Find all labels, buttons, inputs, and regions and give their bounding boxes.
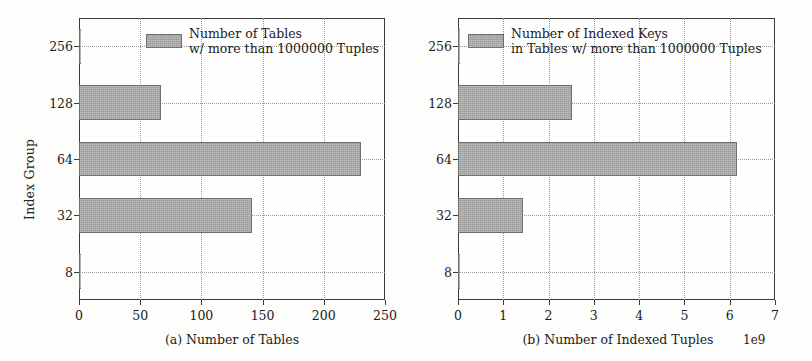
x-tick-label: 4: [635, 308, 643, 323]
x-tick-label: 1: [499, 308, 507, 323]
bar-256: [458, 29, 460, 64]
y-tick-mark: [74, 272, 79, 273]
bar-128: [458, 85, 572, 120]
x-tick-mark: [684, 300, 685, 305]
x-tick-label: 250: [373, 308, 397, 323]
panel-a-y-axis-label: Index Group: [22, 139, 37, 220]
y-tick-mark: [453, 215, 458, 216]
x-tick-mark: [775, 300, 776, 305]
x-tick-mark: [730, 300, 731, 305]
panel-b-legend-line2: in Tables w/ more than 1000000 Tuples: [511, 41, 762, 56]
bar-8: [458, 254, 460, 289]
bar-32: [458, 198, 523, 233]
x-tick-label: 200: [312, 308, 336, 323]
y-tick-label: 8: [420, 264, 452, 279]
bar-128: [79, 85, 161, 120]
x-tick-mark: [140, 300, 141, 305]
x-tick-label: 6: [726, 308, 734, 323]
panel-b-exponent-label: 1e9: [743, 333, 765, 347]
gridline-horizontal: [458, 272, 775, 273]
y-tick-mark: [74, 159, 79, 160]
y-tick-mark: [453, 159, 458, 160]
panel-a-number-of-tables: Index Group 050100150200250 83264128256 …: [0, 0, 406, 361]
x-tick-label: 0: [454, 308, 462, 323]
x-tick-mark: [201, 300, 202, 305]
panel-b-number-of-indexed-tuples: Index Group 01234567 83264128256 Number …: [406, 0, 812, 361]
panel-a-legend: Number of Tables w/ more than 1000000 Tu…: [146, 26, 379, 57]
x-tick-label: 0: [75, 308, 83, 323]
x-tick-label: 7: [771, 308, 779, 323]
panel-a-legend-text: Number of Tables w/ more than 1000000 Tu…: [189, 26, 379, 57]
panel-b-legend: Number of Indexed Keys in Tables w/ more…: [468, 26, 762, 57]
y-tick-label: 32: [41, 208, 73, 223]
y-tick-mark: [74, 103, 79, 104]
x-tick-mark: [79, 300, 80, 305]
panel-a-legend-swatch: [146, 34, 182, 48]
x-tick-label: 3: [590, 308, 598, 323]
bar-8: [79, 254, 81, 289]
panel-b-legend-text: Number of Indexed Keys in Tables w/ more…: [511, 26, 762, 57]
x-tick-label: 5: [680, 308, 688, 323]
y-tick-mark: [453, 272, 458, 273]
x-tick-label: 100: [189, 308, 213, 323]
x-tick-mark: [549, 300, 550, 305]
panel-a-legend-line1: Number of Tables: [189, 26, 379, 41]
y-tick-label: 128: [41, 95, 73, 110]
panel-b-caption: (b) Number of Indexed Tuples: [522, 332, 713, 347]
x-tick-mark: [385, 300, 386, 305]
gridline-horizontal: [79, 272, 385, 273]
x-tick-mark: [503, 300, 504, 305]
y-tick-label: 32: [420, 208, 452, 223]
panel-a-caption: (a) Number of Tables: [165, 332, 299, 347]
x-tick-label: 2: [545, 308, 553, 323]
panel-b-legend-line1: Number of Indexed Keys: [511, 26, 762, 41]
x-tick-mark: [324, 300, 325, 305]
figure-two-panel-bar-charts: Index Group 050100150200250 83264128256 …: [0, 0, 812, 361]
bar-64: [458, 142, 737, 177]
y-tick-label: 256: [420, 39, 452, 54]
x-tick-mark: [639, 300, 640, 305]
x-tick-mark: [594, 300, 595, 305]
x-tick-mark: [458, 300, 459, 305]
panel-b-legend-swatch: [468, 34, 504, 48]
y-tick-mark: [453, 46, 458, 47]
x-tick-label: 150: [251, 308, 275, 323]
y-tick-label: 64: [420, 152, 452, 167]
y-tick-label: 256: [41, 39, 73, 54]
y-tick-mark: [74, 46, 79, 47]
y-tick-label: 128: [420, 95, 452, 110]
y-tick-mark: [453, 103, 458, 104]
y-tick-mark: [74, 215, 79, 216]
y-tick-label: 64: [41, 152, 73, 167]
bar-32: [79, 198, 252, 233]
panel-a-legend-line2: w/ more than 1000000 Tuples: [189, 41, 379, 56]
y-tick-label: 8: [41, 264, 73, 279]
bar-64: [79, 142, 361, 177]
x-tick-label: 50: [132, 308, 148, 323]
x-tick-mark: [263, 300, 264, 305]
bar-256: [79, 29, 81, 64]
